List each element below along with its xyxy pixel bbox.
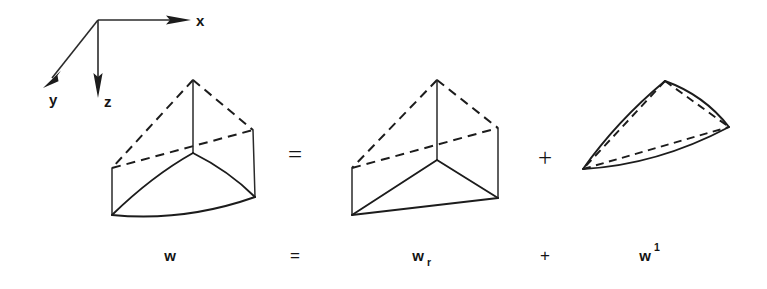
term-w-base: w	[163, 247, 176, 264]
equals-operator-terms: =	[290, 246, 300, 265]
decomposition-diagram: x y z	[0, 0, 767, 289]
x-axis-label: x	[196, 12, 205, 29]
plus-operator-shapes: +	[538, 144, 552, 171]
term-wr-base: w	[411, 247, 424, 264]
equals-operator-shapes: =	[288, 141, 302, 168]
term-label-w: w	[163, 247, 176, 264]
term-w1-base: w	[638, 247, 651, 264]
figure-root: x y z	[0, 0, 767, 289]
term-w1-superscript: 1	[654, 241, 660, 253]
z-axis-label: z	[104, 93, 112, 110]
term-wr-subscript: r	[427, 256, 431, 268]
canvas-background	[0, 0, 767, 289]
y-axis-label: y	[49, 91, 58, 108]
plus-operator-terms: +	[540, 246, 550, 265]
